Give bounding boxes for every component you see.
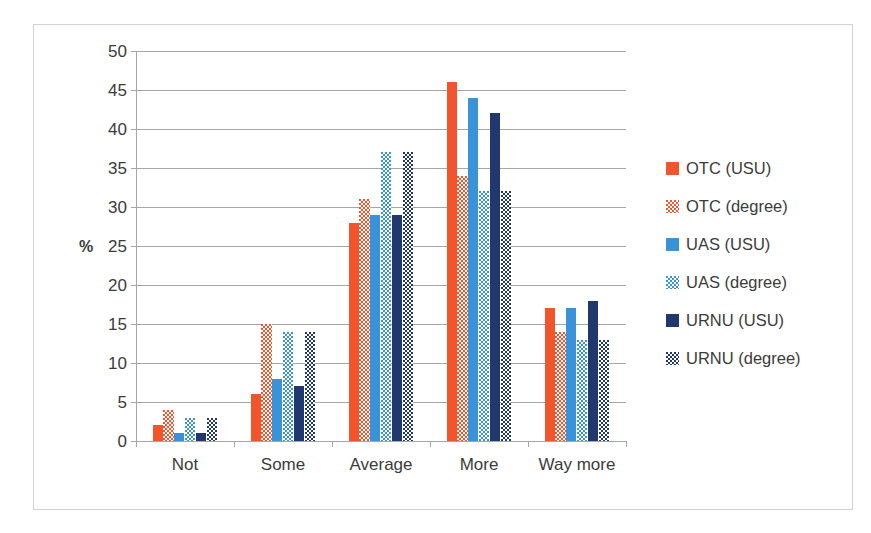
bar <box>207 418 217 441</box>
legend-item[interactable]: URNU (degree) <box>666 339 846 377</box>
bar <box>555 332 565 441</box>
bar <box>185 418 195 441</box>
y-tick-label: 50 <box>108 43 127 60</box>
legend-label: OTC (degree) <box>686 197 788 216</box>
bar <box>545 308 555 441</box>
bar <box>403 152 413 441</box>
legend-label: OTC (USU) <box>686 159 771 178</box>
bar <box>599 340 609 441</box>
x-tick-mark <box>626 441 627 447</box>
bar <box>294 386 304 441</box>
bar <box>251 394 261 441</box>
x-tick-mark <box>332 441 333 447</box>
bar <box>468 98 478 441</box>
x-tick-label: Average <box>349 455 412 475</box>
bar <box>359 199 369 441</box>
bar <box>566 308 576 441</box>
y-tick-label: 20 <box>108 277 127 294</box>
bar <box>349 223 359 441</box>
bar-group <box>234 51 332 441</box>
x-tick-label: Some <box>261 455 305 475</box>
y-tick-label: 15 <box>108 316 127 333</box>
legend-item[interactable]: UAS (USU) <box>666 225 846 263</box>
bar <box>272 379 282 441</box>
bar <box>479 191 489 441</box>
bar-group <box>332 51 430 441</box>
bar <box>196 433 206 441</box>
x-tick-label: More <box>460 455 499 475</box>
bar <box>153 425 163 441</box>
legend-item[interactable]: OTC (USU) <box>666 149 846 187</box>
bar <box>392 215 402 441</box>
x-tick-mark <box>136 441 137 447</box>
bar <box>370 215 380 441</box>
x-tick-label: Way more <box>539 455 616 475</box>
bar <box>163 410 173 441</box>
bar <box>501 191 511 441</box>
legend-item[interactable]: URNU (USU) <box>666 301 846 339</box>
bar <box>490 113 500 441</box>
x-tick-label: Not <box>172 455 198 475</box>
legend-label: UAS (degree) <box>686 273 787 292</box>
legend-swatch-icon <box>666 162 679 175</box>
bar <box>577 340 587 441</box>
y-axis-title: % <box>79 238 93 256</box>
legend-item[interactable]: UAS (degree) <box>666 263 846 301</box>
y-tick-label: 25 <box>108 238 127 255</box>
legend-swatch-icon <box>666 314 679 327</box>
bar <box>457 176 467 441</box>
chart-legend: OTC (USU)OTC (degree)UAS (USU)UAS (degre… <box>666 149 846 377</box>
plot-area: 50454035302520151050 NotSomeAverageMoreW… <box>136 51 626 441</box>
bar <box>447 82 457 441</box>
bar <box>588 301 598 441</box>
bar <box>283 332 293 441</box>
bar-group <box>430 51 528 441</box>
x-axis-line <box>136 441 626 442</box>
legend-item[interactable]: OTC (degree) <box>666 187 846 225</box>
bar-group <box>136 51 234 441</box>
legend-label: URNU (degree) <box>686 349 801 368</box>
legend-swatch-icon <box>666 238 679 251</box>
y-tick-label: 5 <box>118 394 127 411</box>
y-tick-label: 0 <box>118 433 127 450</box>
figure-caption <box>36 516 846 533</box>
bar <box>261 324 271 441</box>
chart-figure-frame: % 50454035302520151050 NotSomeAverageMor… <box>33 24 853 510</box>
bar <box>305 332 315 441</box>
bar <box>381 152 391 441</box>
x-tick-mark <box>528 441 529 447</box>
y-tick-label: 40 <box>108 121 127 138</box>
x-tick-mark <box>234 441 235 447</box>
y-tick-label: 35 <box>108 160 127 177</box>
bar-group <box>528 51 626 441</box>
y-tick-label: 30 <box>108 199 127 216</box>
y-tick-label: 45 <box>108 82 127 99</box>
bar <box>174 433 184 441</box>
x-tick-mark <box>430 441 431 447</box>
legend-label: UAS (USU) <box>686 235 770 254</box>
legend-swatch-icon <box>666 352 679 365</box>
legend-label: URNU (USU) <box>686 311 784 330</box>
legend-swatch-icon <box>666 200 679 213</box>
legend-swatch-icon <box>666 276 679 289</box>
y-tick-label: 10 <box>108 355 127 372</box>
